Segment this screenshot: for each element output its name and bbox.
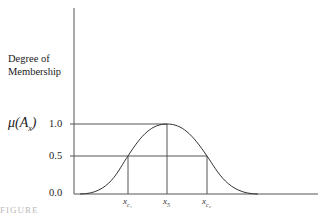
x-label-xc2: xc₂ bbox=[202, 196, 211, 208]
x-label-xc1: xc₁ bbox=[123, 196, 132, 208]
x-label-x5: x5 bbox=[163, 196, 170, 208]
membership-plot bbox=[0, 0, 327, 215]
membership-curve bbox=[80, 124, 258, 194]
figure-caption: FIGURE bbox=[0, 205, 39, 215]
